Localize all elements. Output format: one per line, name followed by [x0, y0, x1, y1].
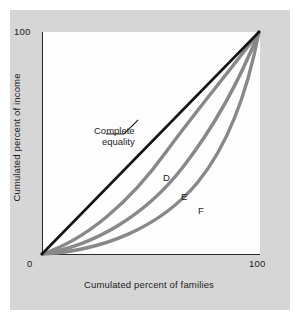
- plot-curves-svg: [42, 32, 259, 254]
- y-axis-label: Cumulated percent of income: [11, 38, 22, 238]
- curve-label-f: F: [198, 205, 204, 216]
- curve-label-e: E: [181, 191, 187, 202]
- annotation-complete-equality: Complete equality: [94, 125, 135, 147]
- x-axis-tick-100: 100: [249, 258, 265, 269]
- y-axis-tick-100: 100: [14, 26, 30, 37]
- origin-tick-0: 0: [27, 258, 32, 269]
- curve-label-d: D: [163, 172, 170, 183]
- lorenz-curve-figure: Complete equality D E F 100 0 100 Cumula…: [0, 0, 298, 323]
- x-axis-label: Cumulated percent of families: [0, 279, 298, 290]
